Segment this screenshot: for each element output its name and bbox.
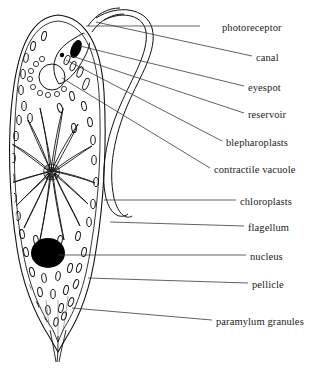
label-canal: canal xyxy=(256,52,279,63)
euglena-diagram: photoreceptorcanaleyespotreservoirblepha… xyxy=(0,0,316,368)
label-paramylum-granules: paramylum granules xyxy=(216,316,304,327)
label-pellicle: pellicle xyxy=(252,279,284,290)
label-chloroplasts: chloroplasts xyxy=(240,196,292,207)
label-eyespot: eyespot xyxy=(248,82,281,93)
label-contractile-vacuole: contractile vacuole xyxy=(214,164,295,175)
label-photoreceptor: photoreceptor xyxy=(222,22,282,33)
label-flagellum: flagellum xyxy=(248,222,289,233)
label-nucleus: nucleus xyxy=(250,251,283,262)
label-reservoir: reservoir xyxy=(248,109,286,120)
label-list: photoreceptorcanaleyespotreservoirblepha… xyxy=(0,0,316,368)
label-blepharoplasts: blepharoplasts xyxy=(226,137,288,148)
